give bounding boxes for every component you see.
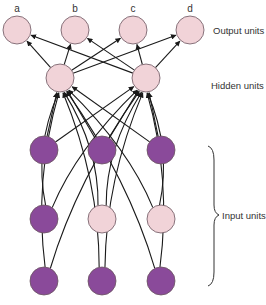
hidden-unit-h1 (46, 64, 74, 92)
output-unit-label-a: a (14, 3, 20, 14)
output-units-label: Output units (213, 25, 264, 36)
output-unit-label-b: b (72, 3, 78, 14)
input-brace (208, 146, 219, 286)
output-unit-label-d: d (187, 3, 193, 14)
output-unit-label-c: c (131, 3, 136, 14)
input-units-label: Input units (222, 210, 266, 221)
input-unit-i13-active (147, 136, 175, 164)
input-unit-i23-inactive (147, 205, 175, 233)
input-unit-i22-inactive (88, 205, 116, 233)
input-unit-i33-active (147, 267, 175, 295)
input-unit-i11-active (30, 136, 58, 164)
input-unit-i21-active (30, 205, 58, 233)
connection-arrow (155, 41, 179, 68)
output-unit-a (3, 16, 31, 44)
input-unit-i12-active (88, 136, 116, 164)
input-unit-i32-active (88, 267, 116, 295)
connection-arrow (27, 41, 51, 67)
output-unit-b (61, 16, 89, 44)
connection-arrow (105, 93, 143, 268)
neural-network-diagram (0, 0, 266, 305)
input-unit-i31-active (30, 267, 58, 295)
hidden-units-label: Hidden units (211, 80, 264, 91)
connection-arrow (42, 93, 59, 267)
units (3, 16, 204, 295)
output-unit-c (119, 16, 147, 44)
hidden-unit-h2 (132, 64, 160, 92)
connection-arrow (63, 93, 99, 268)
connection-arrow (147, 93, 164, 267)
output-unit-d (176, 16, 204, 44)
